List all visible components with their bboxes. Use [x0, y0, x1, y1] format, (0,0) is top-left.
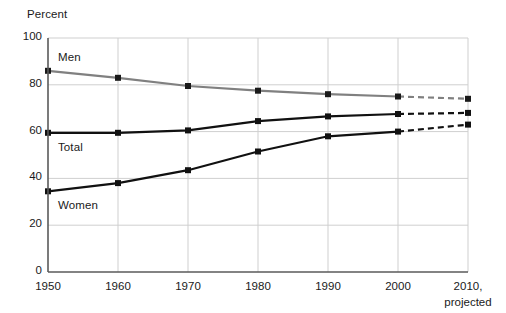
x-axis-tick-label: 1980 — [223, 280, 293, 292]
series-label-total: Total — [58, 141, 83, 153]
data-point-marker-men — [395, 94, 401, 100]
x-axis-tick-label: 2000 — [363, 280, 433, 292]
series-label-men: Men — [58, 51, 81, 63]
y-axis-tick-label: 80 — [8, 77, 42, 89]
y-axis-tick-label: 0 — [8, 264, 42, 276]
data-point-marker-total — [395, 111, 401, 117]
y-axis-tick-label: 60 — [8, 124, 42, 136]
data-point-marker-men — [185, 83, 191, 89]
series-label-women: Women — [58, 199, 98, 211]
data-point-marker-women — [185, 167, 191, 173]
data-point-marker-women — [115, 180, 121, 186]
data-point-marker-total — [255, 118, 261, 124]
data-point-marker-women — [325, 133, 331, 139]
series-line-projected-women — [398, 125, 468, 132]
data-point-marker-men — [115, 75, 121, 81]
series-line-projected-men — [398, 97, 468, 99]
series-line-women — [48, 132, 398, 192]
x-axis-tick-label: 1970 — [153, 280, 223, 292]
data-point-marker-women — [395, 129, 401, 135]
series-line-men — [48, 71, 398, 97]
y-axis-tick-label: 20 — [8, 217, 42, 229]
data-point-marker-men — [325, 91, 331, 97]
data-point-marker-total — [185, 127, 191, 133]
line-chart-plot — [0, 0, 506, 313]
data-point-marker-women — [255, 149, 261, 155]
data-point-marker-total — [115, 130, 121, 136]
chart-container: Percent 020406080100 1950196019701980199… — [0, 0, 506, 313]
x-axis-tick-label: 1990 — [293, 280, 363, 292]
data-point-marker-women — [465, 122, 471, 128]
gridlines — [48, 38, 468, 272]
series-line-projected-total — [398, 113, 468, 114]
x-axis-tick-label: 2010, — [433, 280, 503, 292]
y-axis-tick-label: 40 — [8, 170, 42, 182]
x-axis-tick-label: 1960 — [83, 280, 153, 292]
y-axis-tick-label: 100 — [8, 30, 42, 42]
data-point-marker-total — [325, 113, 331, 119]
x-axis-projected-note: projected — [425, 296, 506, 308]
data-point-marker-men — [465, 96, 471, 102]
series-line-total — [48, 114, 398, 133]
x-axis-tick-label: 1950 — [13, 280, 83, 292]
data-point-marker-men — [255, 88, 261, 94]
data-point-marker-total — [465, 110, 471, 116]
